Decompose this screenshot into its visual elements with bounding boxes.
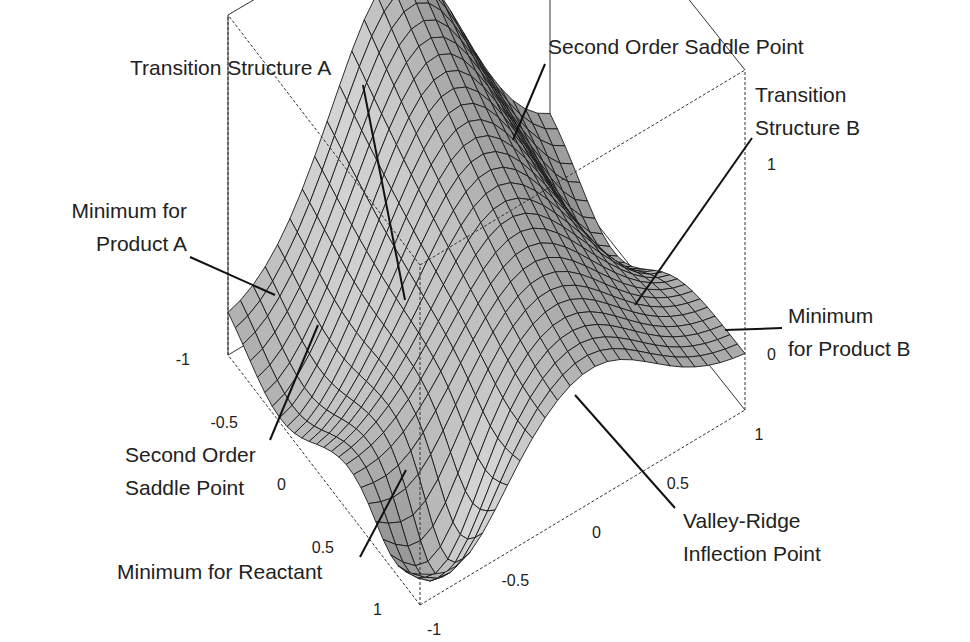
leader-line-vri bbox=[575, 395, 675, 508]
y-tick-label: 0.5 bbox=[667, 475, 689, 492]
annotation-line: Transition bbox=[755, 83, 846, 106]
annotation-ts-b: TransitionStructure B bbox=[755, 83, 860, 139]
x-tick-label: 1 bbox=[373, 601, 382, 618]
annotation-line: Minimum for bbox=[71, 199, 187, 222]
energy-surface bbox=[228, 0, 745, 581]
x-tick-label: -0.5 bbox=[210, 414, 238, 431]
annotation-line: for Product B bbox=[788, 337, 911, 360]
annotation-ts-a: Transition Structure A bbox=[130, 56, 331, 79]
annotation-min-prod-b: Minimumfor Product B bbox=[788, 304, 911, 360]
annotation-line: Second Order Saddle Point bbox=[548, 35, 804, 58]
x-tick-label: 0 bbox=[277, 476, 286, 493]
annotation-min-react: Minimum for Reactant bbox=[117, 560, 323, 583]
annotation-line: Minimum for Reactant bbox=[117, 560, 323, 583]
annotation-line: Minimum bbox=[788, 304, 873, 327]
annotation-sosp-left: Second OrderSaddle Point bbox=[125, 443, 256, 499]
annotation-line: Transition Structure A bbox=[130, 56, 331, 79]
x-tick-label: 0.5 bbox=[312, 539, 334, 556]
annotation-min-prod-a: Minimum forProduct A bbox=[71, 199, 187, 255]
z-tick-label: 1 bbox=[767, 156, 776, 173]
annotation-line: Saddle Point bbox=[125, 476, 244, 499]
annotation-line: Valley-Ridge bbox=[683, 509, 801, 532]
annotation-line: Inflection Point bbox=[683, 542, 821, 565]
x-tick-label: -1 bbox=[176, 351, 190, 368]
annotation-vri: Valley-RidgeInflection Point bbox=[683, 509, 821, 565]
annotation-line: Second Order bbox=[125, 443, 256, 466]
y-tick-label: 0 bbox=[592, 524, 601, 541]
z-tick-label: 0 bbox=[767, 346, 776, 363]
leader-line-min-prod-b bbox=[725, 328, 782, 330]
y-tick-label: 1 bbox=[755, 426, 764, 443]
y-tick-label: -1 bbox=[427, 621, 441, 638]
annotation-line: Product A bbox=[96, 232, 187, 255]
leader-line-ts-b bbox=[635, 138, 752, 305]
y-tick-label: -0.5 bbox=[501, 572, 529, 589]
annotation-sosp-top: Second Order Saddle Point bbox=[548, 35, 804, 58]
annotation-line: Structure B bbox=[755, 116, 860, 139]
surface-plot: -1-0.500.51-1-0.500.5101 Transition Stru… bbox=[0, 0, 970, 642]
